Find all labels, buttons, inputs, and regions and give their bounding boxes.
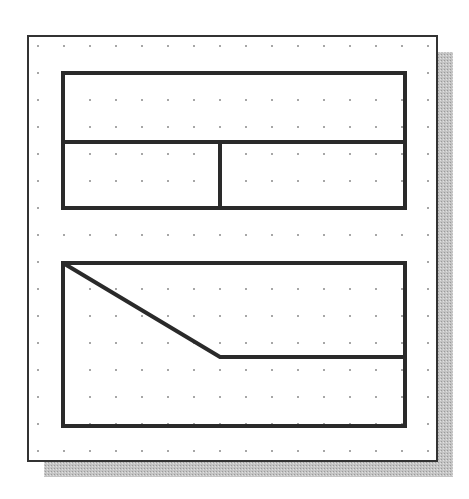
sketch-canvas <box>0 0 469 499</box>
